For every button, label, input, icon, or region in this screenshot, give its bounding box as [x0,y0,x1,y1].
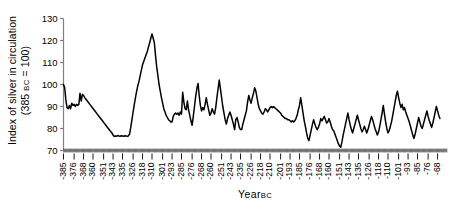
x-tick-label: -68 [432,162,442,175]
x-tick-label-group: -360 [87,162,97,179]
x-tick-label: -285 [176,162,186,179]
x-tick-label: -385 [58,162,68,179]
x-tick-label: -235 [235,162,245,179]
x-axis-label: YearBC [63,188,447,200]
x-tick-label-group: -335 [117,162,127,179]
x-tick-label: -210 [264,162,274,179]
chart-plot-area: 708090100110120130-385-376-368-360-351-3… [0,0,456,211]
x-tick-label-group: -85 [412,162,422,175]
y-tick-label: 100 [42,79,58,90]
x-tick-label-group: -235 [235,162,245,179]
x-axis-label-era: BC [261,191,272,200]
y-tick-label: 110 [42,57,57,68]
y-tick-label: 120 [42,35,58,46]
x-tick-label: -185 [294,162,304,179]
y-tick-label: 80 [47,123,58,134]
x-tick-label-group: -260 [205,162,215,179]
x-tick-label-group: -68 [432,162,442,175]
x-tick-label-group: -285 [176,162,186,179]
x-axis-label-main: Year [238,188,261,200]
x-tick-label-group: -210 [264,162,274,179]
x-tick-label: -360 [87,162,97,179]
x-tick-label: -335 [117,162,127,179]
x-tick-label-group: -185 [294,162,304,179]
y-tick-label: 130 [42,13,58,24]
x-tick-label: -260 [205,162,215,179]
x-tick-label-group: -385 [58,162,68,179]
y-tick-label: 90 [47,101,58,112]
data-series-line [64,34,440,147]
x-tick-label: -110 [382,162,392,179]
x-tick-label: -310 [146,162,156,179]
x-tick-label: -160 [323,162,333,179]
chart-figure: Index of silver in circulation (385 BC =… [0,0,456,211]
x-tick-label-group: -160 [323,162,333,179]
x-tick-label-group: -135 [353,162,363,179]
y-tick-label: 70 [47,145,58,156]
x-tick-label-group: -110 [382,162,392,179]
x-tick-label: -85 [412,162,422,175]
x-tick-label-group: -310 [146,162,156,179]
x-tick-label: -135 [353,162,363,179]
